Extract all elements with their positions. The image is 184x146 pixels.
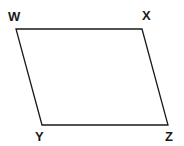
vertex-label-z: Z xyxy=(165,129,173,144)
parallelogram-wxyz xyxy=(16,29,168,125)
vertex-label-w: W xyxy=(8,9,21,24)
vertex-label-y: Y xyxy=(35,129,44,144)
vertex-label-x: X xyxy=(142,8,151,23)
parallelogram-diagram: W X Z Y xyxy=(0,0,184,146)
